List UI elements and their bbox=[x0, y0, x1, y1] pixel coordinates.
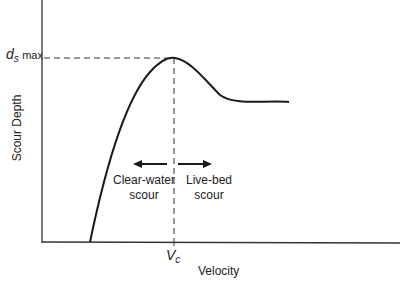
x-axis bbox=[42, 242, 400, 243]
arrowhead-left-icon bbox=[133, 160, 142, 168]
clear-water-label: Clear-water scour bbox=[113, 173, 175, 203]
x-axis-label: Velocity bbox=[198, 264, 239, 278]
y-axis-label: Scour Depth bbox=[10, 95, 24, 162]
arrowhead-right-icon bbox=[203, 160, 212, 168]
ds-max-label: ds max bbox=[6, 46, 43, 64]
live-bed-label: Live-bed scour bbox=[186, 173, 232, 203]
scour-depth-curve bbox=[90, 58, 289, 242]
scour-diagram bbox=[0, 0, 402, 286]
vc-label: Vc bbox=[166, 247, 180, 265]
